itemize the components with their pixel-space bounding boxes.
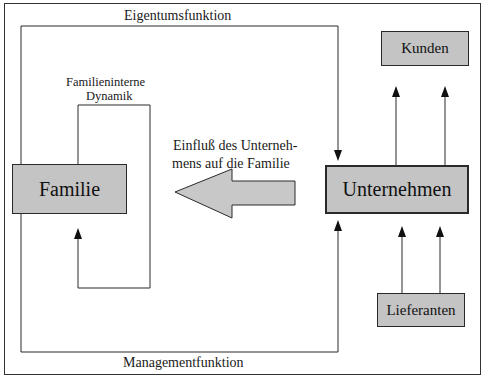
familie-box: Familie	[12, 164, 127, 214]
dynamik-label-line1: Familieninterne	[66, 75, 145, 90]
einfluss-arrow	[175, 169, 295, 218]
dynamik-arrowhead	[74, 228, 82, 239]
einfluss-label-line1: Einfluß des Unterneh-	[173, 138, 297, 154]
managementfunktion-line	[21, 214, 338, 352]
kunden-box: Kunden	[381, 31, 469, 66]
unternehmen-box: Unternehmen	[325, 165, 469, 214]
einfluss-label-line2: mens auf die Familie	[172, 156, 290, 172]
eigentumsfunktion-arrowhead	[334, 150, 342, 161]
eigentumsfunktion-label: Eigentumsfunktion	[124, 8, 231, 24]
managementfunktion-arrowhead	[334, 220, 342, 231]
managementfunktion-label: Managementfunktion	[123, 355, 244, 371]
dynamik-label-line2: Dynamik	[86, 89, 133, 104]
lieferanten-box: Lieferanten	[377, 293, 465, 327]
